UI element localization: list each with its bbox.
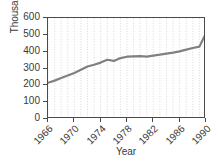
x-axis-tick-labels: 1966 1970 1974 1978 1982 1986 1990: [0, 118, 218, 148]
plot-svg: [48, 18, 205, 118]
y-axis-tick-labels: 600 500 400 300 200 100 0: [16, 11, 40, 123]
line-chart: Thousands 600 500 400 300 200 100 0 1966…: [0, 0, 218, 162]
y-tick-label: 100: [16, 95, 40, 107]
y-tick-label: 300: [16, 62, 40, 74]
y-tick-label: 600: [16, 11, 40, 23]
plot-area: [47, 17, 205, 118]
data-series-line: [48, 33, 205, 83]
y-tick-label: 400: [16, 45, 40, 57]
vertical-gridlines: [48, 18, 205, 118]
y-tick-label: 200: [16, 78, 40, 90]
y-tick-label: 500: [16, 28, 40, 40]
x-axis-title: Year: [47, 145, 205, 159]
